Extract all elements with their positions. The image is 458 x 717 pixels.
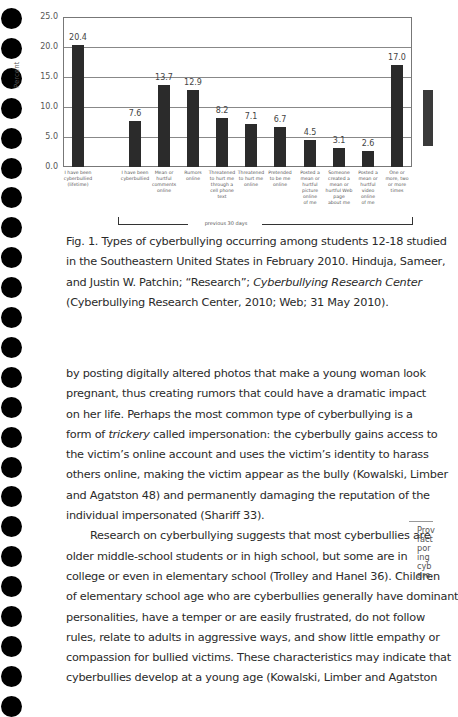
- chart-bar: [245, 124, 257, 167]
- text-line: form of trickery called impersonation: t…: [66, 425, 406, 445]
- binder-hole: [1, 457, 22, 478]
- text-line: college or even in elementary school (Tr…: [66, 567, 406, 587]
- binder-hole: [1, 397, 22, 418]
- bracket-tick: [118, 217, 119, 225]
- text-line: pregnant, thus creating rumors that coul…: [66, 384, 406, 404]
- text-line: individual impersonated (Shariff 33).: [66, 506, 406, 526]
- chart-bar: [274, 127, 286, 167]
- bar-chart: Percent 25.0 20.0 15.0 10.0 5.0 0.0 20.4…: [0, 0, 433, 240]
- margin-note-rule: [409, 521, 433, 522]
- binder-hole: [1, 277, 22, 298]
- text-line: compassion for bullied victims. These ch…: [66, 648, 406, 668]
- binder-hole: [1, 247, 22, 268]
- bar-value-label: 2.6: [353, 139, 383, 148]
- binder-hole: [1, 427, 22, 448]
- binder-hole: [1, 516, 22, 537]
- text-line: on her life. Perhaps the most common typ…: [66, 405, 406, 425]
- chart-bar: [187, 90, 199, 167]
- bar-value-label: 4.5: [295, 128, 325, 137]
- binder-hole: [1, 576, 22, 597]
- binder-hole: [1, 606, 22, 627]
- text-line: rules, relate to adults in aggressive wa…: [66, 628, 406, 648]
- chart-bar: [304, 140, 316, 167]
- bar-value-label: 20.4: [63, 33, 93, 42]
- chart-bar: [129, 121, 141, 167]
- caption-line: in the Southeastern United States in Feb…: [66, 252, 406, 272]
- text-line: of elementary school age who are cyberbu…: [66, 587, 406, 607]
- bracket-line: [262, 224, 413, 225]
- body-text: by posting digitally altered photos that…: [66, 364, 406, 689]
- y-tick: 15.0: [30, 72, 58, 81]
- text-line: and Agatston 48) and permanently damagin…: [66, 486, 406, 506]
- binder-hole: [1, 636, 22, 657]
- chart-bar: [362, 151, 374, 167]
- category-label: One or more, two or more times: [377, 170, 417, 194]
- gridline: [64, 47, 411, 48]
- bar-value-label: 7.6: [120, 109, 150, 118]
- gridline: [64, 77, 411, 78]
- bar-value-label: 12.9: [178, 78, 208, 87]
- caption-line: and Justin W. Patchin; “Research”; Cyber…: [66, 273, 406, 293]
- chart-bar: [333, 148, 345, 167]
- binder-hole: [1, 337, 22, 358]
- text-line: by posting digitally altered photos that…: [66, 364, 406, 384]
- gridline: [64, 107, 411, 108]
- caption-line: (Cyberbullying Research Center, 2010; We…: [66, 293, 406, 313]
- y-tick: 25.0: [30, 12, 58, 21]
- y-tick: 5.0: [30, 132, 58, 141]
- chart-bar: [158, 85, 170, 167]
- category-label: I have been cyberbullied (lifetime): [58, 170, 98, 188]
- binder-hole: [1, 666, 22, 687]
- y-tick: 0.0: [30, 162, 58, 171]
- bar-value-label: 3.1: [324, 136, 354, 145]
- bar-value-label: 6.7: [265, 115, 295, 124]
- caption-line: Fig. 1. Types of cyberbullying occurring…: [66, 232, 406, 252]
- bracket-label: previous 30 days: [190, 220, 262, 226]
- y-tick: 20.0: [30, 42, 58, 51]
- y-axis-title: Percent: [13, 62, 21, 88]
- source-title: Cyberbullying Research Center: [253, 276, 422, 289]
- chart-bar: [216, 118, 228, 167]
- binder-hole: [1, 307, 22, 328]
- margin-note: Prov fact por ing cyb are.: [417, 526, 447, 580]
- text-line: cyberbullies develop at a young age (Kow…: [66, 668, 406, 688]
- binder-hole: [1, 486, 22, 507]
- binder-hole: [1, 546, 22, 567]
- page-edge-tab: [423, 90, 433, 146]
- text-line: older middle-school students or in high …: [66, 547, 406, 567]
- emphasis: trickery: [108, 428, 149, 441]
- text-line: others online, making the victim appear …: [66, 465, 406, 485]
- chart-bar: [391, 65, 403, 167]
- text-line: the victim’s online account and uses the…: [66, 445, 406, 465]
- y-tick: 10.0: [30, 102, 58, 111]
- binder-hole: [1, 367, 22, 388]
- bracket-tick: [412, 217, 413, 225]
- text-line: Research on cyberbullying suggests that …: [66, 526, 406, 546]
- text-line: personalities, have a temper or are easi…: [66, 608, 406, 628]
- bar-value-label: 8.2: [207, 106, 237, 115]
- binder-hole: [1, 696, 22, 717]
- bracket-line: [118, 224, 188, 225]
- bar-value-label: 17.0: [382, 53, 412, 62]
- chart-bar: [72, 45, 84, 167]
- bar-value-label: 7.1: [236, 112, 266, 121]
- bar-value-label: 13.7: [149, 73, 179, 82]
- figure-caption: Fig. 1. Types of cyberbullying occurring…: [66, 232, 406, 313]
- gridline: [64, 137, 411, 138]
